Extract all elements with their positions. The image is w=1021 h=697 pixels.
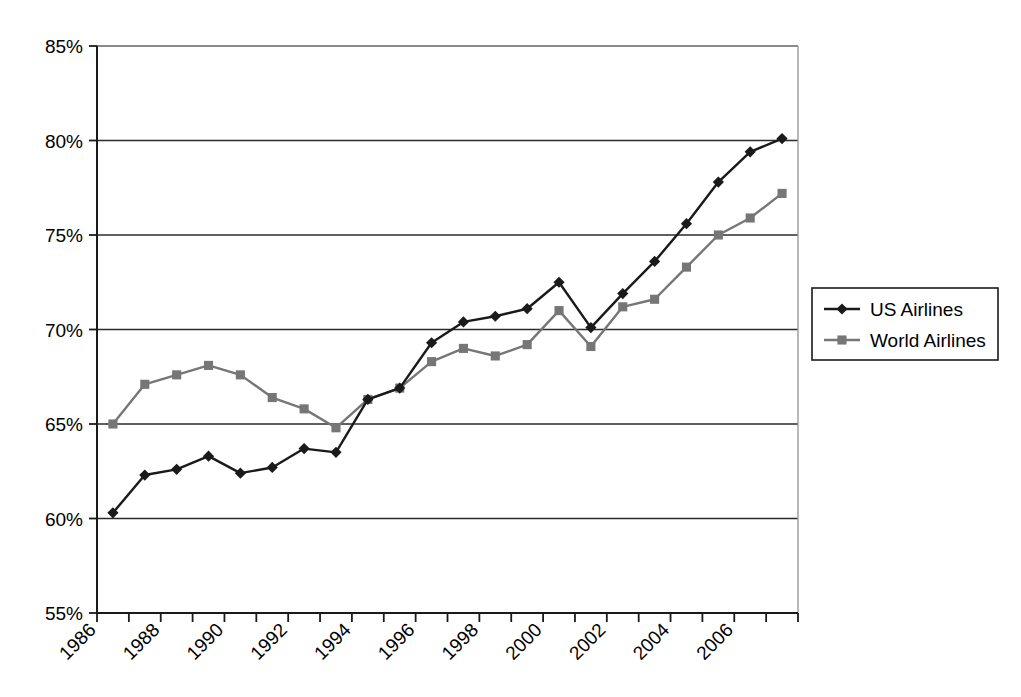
- x-tick-label: 1996: [374, 619, 419, 664]
- data-point: [140, 380, 149, 389]
- legend-label: US Airlines: [870, 299, 963, 320]
- data-point: [300, 404, 309, 413]
- load-factor-line-chart: 85%80%75%70%65%60%55% 198619881990199219…: [0, 0, 1021, 697]
- x-tick-label: 1988: [119, 619, 164, 664]
- legend-label: World Airlines: [870, 330, 986, 351]
- data-point: [778, 189, 787, 198]
- x-tick-label: 1998: [437, 619, 482, 664]
- x-tick-label: 1990: [183, 619, 228, 664]
- x-tick-label: 2002: [565, 619, 610, 664]
- data-point: [427, 357, 436, 366]
- y-tick-label: 80%: [45, 131, 83, 152]
- data-point: [236, 370, 245, 379]
- y-axis: 85%80%75%70%65%60%55%: [45, 36, 97, 624]
- x-tick-label: 2006: [692, 619, 737, 664]
- data-point: [268, 393, 277, 402]
- y-tick-label: 55%: [45, 603, 83, 624]
- data-point: [776, 133, 787, 144]
- y-tick-label: 85%: [45, 36, 83, 57]
- x-tick-label: 1986: [55, 619, 100, 664]
- data-series: [107, 133, 787, 518]
- data-point: [490, 311, 501, 322]
- x-tick-label: 1994: [310, 619, 355, 664]
- x-tick-label: 1992: [246, 619, 291, 664]
- data-point: [682, 263, 691, 272]
- y-tick-label: 75%: [45, 225, 83, 246]
- data-point: [523, 340, 532, 349]
- legend-marker-2: [837, 335, 846, 344]
- data-point: [299, 443, 310, 454]
- y-tick-label: 65%: [45, 414, 83, 435]
- data-point: [459, 344, 468, 353]
- data-point: [267, 462, 278, 473]
- data-point: [203, 451, 214, 462]
- data-point: [650, 295, 659, 304]
- y-tick-label: 60%: [45, 509, 83, 530]
- data-point: [618, 302, 627, 311]
- data-point: [746, 213, 755, 222]
- chart-legend: US AirlinesWorld Airlines: [812, 288, 998, 360]
- data-point: [714, 230, 723, 239]
- series-us-airlines: [107, 133, 787, 518]
- data-point: [108, 419, 117, 428]
- gridlines: [97, 46, 798, 519]
- data-point: [331, 423, 340, 432]
- x-tick-label: 2004: [629, 619, 674, 664]
- x-tick-label: 2000: [501, 619, 546, 664]
- data-point: [554, 306, 563, 315]
- data-point: [204, 361, 213, 370]
- data-point: [172, 370, 181, 379]
- x-axis: 1986198819901992199419961998200020022004…: [55, 613, 798, 664]
- y-tick-label: 70%: [45, 320, 83, 341]
- data-point: [330, 447, 341, 458]
- data-point: [586, 342, 595, 351]
- data-point: [235, 468, 246, 479]
- data-point: [491, 351, 500, 360]
- chart-canvas: 85%80%75%70%65%60%55% 198619881990199219…: [0, 0, 1021, 697]
- data-point: [171, 464, 182, 475]
